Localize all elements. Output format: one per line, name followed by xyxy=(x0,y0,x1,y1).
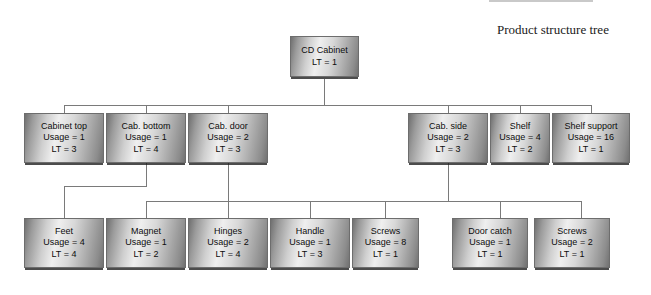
node-usage: Usage = 4 xyxy=(499,132,540,144)
node-title: Cabinet top xyxy=(41,121,87,133)
node-usage: Usage = 2 xyxy=(551,237,592,249)
node-lt: LT = 4 xyxy=(52,249,77,261)
node-magnet[interactable]: Magnet Usage = 1 LT = 2 xyxy=(106,218,186,268)
node-lt: LT = 1 xyxy=(373,249,398,261)
node-cab-door[interactable]: Cab. door Usage = 2 LT = 3 xyxy=(188,113,268,163)
connector-drop-screws-side xyxy=(581,201,582,218)
node-title: CD Cabinet xyxy=(301,45,348,57)
figure-caption: Product structure tree xyxy=(497,22,609,38)
node-lt: LT = 1 xyxy=(478,249,503,261)
node-usage: Usage = 1 xyxy=(289,237,330,249)
node-usage: Usage = 2 xyxy=(427,132,468,144)
connector-bus-cab-bottom xyxy=(64,186,147,187)
figure-banner: FIGURE 14-4 xyxy=(489,0,593,2)
node-title: Door catch xyxy=(468,226,512,238)
node-handle[interactable]: Handle Usage = 1 LT = 3 xyxy=(270,218,350,268)
connector-drop-feet xyxy=(64,186,65,218)
connector-drop-cab-door xyxy=(228,105,229,113)
node-usage: Usage = 2 xyxy=(207,237,248,249)
node-title: Cab. bottom xyxy=(121,121,170,133)
node-title: Screws xyxy=(557,226,587,238)
connector-drop-cabinet-top xyxy=(64,105,65,113)
node-lt: LT = 1 xyxy=(312,57,337,69)
node-screws-door[interactable]: Screws Usage = 8 LT = 1 xyxy=(352,218,419,268)
node-usage: Usage = 8 xyxy=(365,237,406,249)
node-usage: Usage = 1 xyxy=(125,132,166,144)
connector-drop-cab-bottom xyxy=(146,105,147,113)
node-feet[interactable]: Feet Usage = 4 LT = 4 xyxy=(24,218,104,268)
node-lt: LT = 1 xyxy=(579,144,604,156)
connector-stem-cab-side xyxy=(448,163,449,201)
node-title: Cab. door xyxy=(208,121,248,133)
node-lt: LT = 2 xyxy=(134,249,159,261)
node-usage: Usage = 1 xyxy=(469,237,510,249)
node-lt: LT = 4 xyxy=(216,249,241,261)
connector-drop-door-catch xyxy=(500,201,501,218)
connector-stem-cab-bottom xyxy=(146,163,147,186)
node-title: Hinges xyxy=(214,226,242,238)
node-lt: LT = 2 xyxy=(508,144,533,156)
node-lt: LT = 4 xyxy=(134,144,159,156)
node-title: Shelf xyxy=(510,121,531,133)
node-lt: LT = 3 xyxy=(52,144,77,156)
connector-drop-handle xyxy=(310,201,311,218)
node-cd-cabinet[interactable]: CD Cabinet LT = 1 xyxy=(290,36,359,77)
node-cab-side[interactable]: Cab. side Usage = 2 LT = 3 xyxy=(408,113,488,163)
figure-canvas: FIGURE 14-4 Product structure tree CD Ca… xyxy=(0,0,651,295)
connector-bus-cab-door xyxy=(146,201,485,202)
connector-drop-shelf xyxy=(520,105,521,113)
node-usage: Usage = 4 xyxy=(43,237,84,249)
node-title: Feet xyxy=(55,226,73,238)
connector-drop-hinges xyxy=(228,201,229,218)
connector-bus-cab-side xyxy=(448,201,581,202)
node-usage: Usage = 1 xyxy=(43,132,84,144)
node-usage: Usage = 2 xyxy=(207,132,248,144)
node-title: Cab. side xyxy=(429,121,467,133)
node-lt: LT = 3 xyxy=(298,249,323,261)
connector-root-stem xyxy=(324,79,325,105)
node-usage: Usage = 1 xyxy=(125,237,166,249)
node-screws-side[interactable]: Screws Usage = 2 LT = 1 xyxy=(534,218,610,268)
node-shelf-support[interactable]: Shelf support Usage = 16 LT = 1 xyxy=(552,113,630,163)
node-usage: Usage = 16 xyxy=(568,132,614,144)
node-cabinet-top[interactable]: Cabinet top Usage = 1 LT = 3 xyxy=(24,113,104,163)
node-lt: LT = 3 xyxy=(216,144,241,156)
node-title: Shelf support xyxy=(564,121,617,133)
connector-drop-shelf-support xyxy=(591,105,592,113)
node-title: Magnet xyxy=(131,226,161,238)
node-hinges[interactable]: Hinges Usage = 2 LT = 4 xyxy=(188,218,268,268)
node-title: Handle xyxy=(296,226,325,238)
connector-level1-bus xyxy=(64,105,591,106)
node-title: Screws xyxy=(371,226,401,238)
node-cab-bottom[interactable]: Cab. bottom Usage = 1 LT = 4 xyxy=(106,113,186,163)
connector-drop-magnet xyxy=(146,201,147,218)
node-lt: LT = 1 xyxy=(560,249,585,261)
connector-drop-screws-door xyxy=(385,201,386,218)
node-lt: LT = 3 xyxy=(436,144,461,156)
node-shelf[interactable]: Shelf Usage = 4 LT = 2 xyxy=(490,113,550,163)
connector-drop-cab-side xyxy=(448,105,449,113)
node-door-catch[interactable]: Door catch Usage = 1 LT = 1 xyxy=(452,218,528,268)
